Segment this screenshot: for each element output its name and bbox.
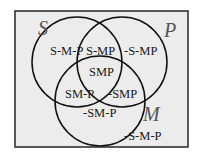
region-s-m-not-p: SM-P — [65, 87, 94, 101]
set-label-m: M — [142, 103, 161, 125]
region-p-only: -S-MP — [124, 44, 157, 58]
set-label-s: S — [38, 17, 48, 39]
venn-diagram: S P M S-M-P S-MP -S-MP SMP SM-P -SMP -SM… — [0, 0, 201, 157]
region-s-only: S-M-P — [50, 44, 83, 58]
region-s-p-not-m: S-MP — [86, 44, 115, 58]
region-m-only: -SM-P — [83, 106, 116, 120]
region-p-m-not-s: -SMP — [108, 87, 137, 101]
region-s-p-m: SMP — [89, 65, 114, 79]
region-outside: -S-M-P — [124, 129, 162, 143]
set-label-p: P — [163, 19, 176, 41]
